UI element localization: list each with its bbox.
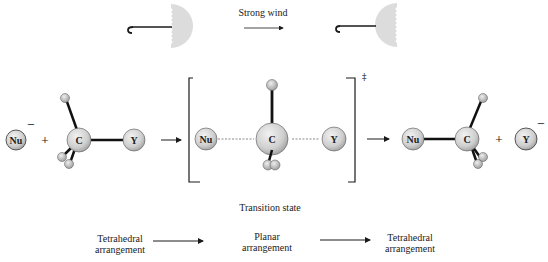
svg-text:Y: Y bbox=[330, 134, 338, 145]
geometry-stage-1: Tetrahedral arrangement bbox=[85, 233, 155, 255]
svg-text:Nu: Nu bbox=[10, 135, 23, 146]
svg-text:C: C bbox=[268, 134, 275, 145]
sn2-diagram: Nu − + C Y ‡ Nu C Y bbox=[0, 0, 548, 262]
svg-text:Nu: Nu bbox=[200, 134, 213, 145]
svg-text:−: − bbox=[537, 118, 545, 129]
substrate-product: Nu C bbox=[402, 94, 488, 169]
geometry-stage-3: Tetrahedral arrangement bbox=[375, 232, 445, 254]
transition-state-caption: Transition state bbox=[215, 202, 325, 213]
svg-text:Nu: Nu bbox=[407, 134, 420, 145]
plus-sign: + bbox=[495, 133, 503, 144]
plus-sign: + bbox=[41, 134, 49, 145]
geometry-stage-2: Planar arrangement bbox=[227, 231, 307, 253]
svg-text:C: C bbox=[463, 134, 470, 145]
leaving-group-product: Y − bbox=[515, 118, 545, 150]
umbrella-open-icon bbox=[128, 4, 193, 48]
double-dagger: ‡ bbox=[362, 72, 367, 82]
wind-label: Strong wind bbox=[228, 7, 298, 18]
substrate-reactant: C Y bbox=[58, 94, 146, 169]
svg-text:Y: Y bbox=[522, 134, 530, 145]
svg-text:C: C bbox=[75, 135, 82, 146]
svg-text:Y: Y bbox=[130, 135, 138, 146]
svg-text:−: − bbox=[27, 119, 35, 130]
transition-state: ‡ Nu C Y bbox=[189, 72, 367, 182]
nucleophile-reactant: Nu − bbox=[6, 119, 35, 150]
umbrella-inverted-icon bbox=[336, 3, 397, 47]
